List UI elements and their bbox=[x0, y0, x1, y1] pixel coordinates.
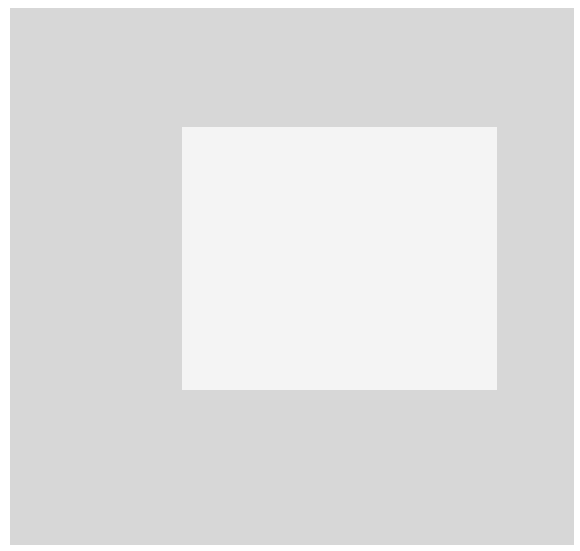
wavefront-refraction-diagram bbox=[0, 0, 580, 551]
inner-medium-region bbox=[182, 127, 497, 390]
figure-root bbox=[0, 0, 580, 551]
